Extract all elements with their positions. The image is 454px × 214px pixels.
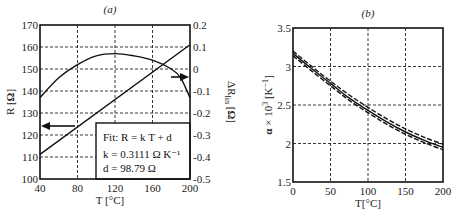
svg-text:150: 150 (397, 185, 414, 197)
chart-a: (a) 408012016020010011012013014015016017… (4, 3, 238, 206)
chart-b: (b) 0501001502001.522.533.5 T[°C] α × 10… (261, 7, 452, 209)
svg-text:130: 130 (22, 107, 39, 119)
svg-text:0: 0 (193, 63, 199, 75)
svg-text:-0.3: -0.3 (193, 129, 211, 141)
chart-a-y2label: ΔRlin [Ω] (223, 81, 238, 123)
svg-text:100: 100 (360, 185, 377, 197)
svg-text:1.5: 1.5 (277, 176, 291, 188)
svg-text:160: 160 (22, 41, 39, 53)
fit-k: k = 0.3111 Ω K⁻¹ (103, 148, 180, 160)
figure: (a) 408012016020010011012013014015016017… (0, 0, 454, 214)
chart-b-xlabel: T[°C] (355, 197, 381, 209)
svg-text:120: 120 (107, 182, 124, 194)
svg-text:200: 200 (435, 185, 452, 197)
svg-text:-0.2: -0.2 (193, 107, 210, 119)
svg-text:-0.5: -0.5 (193, 173, 211, 185)
svg-text:0.2: 0.2 (193, 19, 207, 31)
svg-text:2.5: 2.5 (277, 99, 291, 111)
chart-b-grid (293, 28, 443, 182)
arrow-left-icon (41, 122, 75, 130)
svg-text:120: 120 (22, 129, 39, 141)
svg-text:2: 2 (286, 138, 292, 150)
svg-text:170: 170 (22, 19, 39, 31)
chart-b-title: (b) (362, 7, 375, 20)
svg-text:100: 100 (22, 173, 39, 185)
svg-text:50: 50 (325, 185, 337, 197)
svg-text:150: 150 (22, 63, 39, 75)
chart-b-ylabel: α × 103 [K−1] (261, 75, 274, 134)
chart-b-ticks: 0501001502001.522.533.5 (277, 22, 452, 197)
chart-a-title: (a) (104, 3, 117, 16)
svg-text:160: 160 (144, 182, 161, 194)
arrow-right-icon (171, 73, 189, 81)
svg-text:3: 3 (286, 61, 292, 73)
svg-text:-0.4: -0.4 (193, 151, 211, 163)
svg-text:-0.1: -0.1 (193, 85, 210, 97)
chart-a-xlabel: T [°C] (96, 194, 124, 206)
fit-d: d = 98.79 Ω (103, 162, 156, 174)
chart-a-ylabel: R [Ω] (4, 89, 16, 115)
svg-text:0.1: 0.1 (193, 41, 207, 53)
svg-text:80: 80 (72, 182, 84, 194)
svg-text:140: 140 (22, 85, 39, 97)
fit-equation: Fit: R = k T + d (103, 131, 172, 143)
svg-text:110: 110 (22, 151, 39, 163)
svg-text:3.5: 3.5 (277, 22, 291, 34)
svg-text:0: 0 (290, 185, 296, 197)
